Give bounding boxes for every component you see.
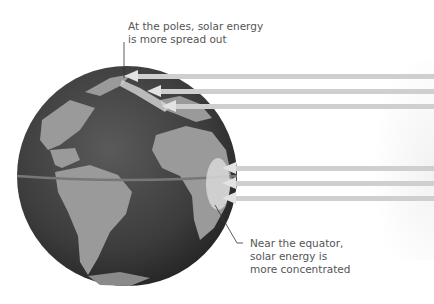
equator-label-line-3: more concentrated: [250, 263, 350, 276]
poles-label: At the poles, solar energy is more sprea…: [128, 20, 263, 46]
globe: [17, 66, 237, 286]
polar-rays: [124, 70, 434, 112]
equator-label: Near the equator, solar energy is more c…: [250, 237, 350, 276]
poles-label-line-1: At the poles, solar energy: [128, 20, 263, 33]
equator-label-line-1: Near the equator,: [250, 237, 350, 250]
equator-label-line-2: solar energy is: [250, 250, 350, 263]
poles-label-line-2: is more spread out: [128, 33, 263, 46]
equatorial-rays: [222, 162, 434, 204]
